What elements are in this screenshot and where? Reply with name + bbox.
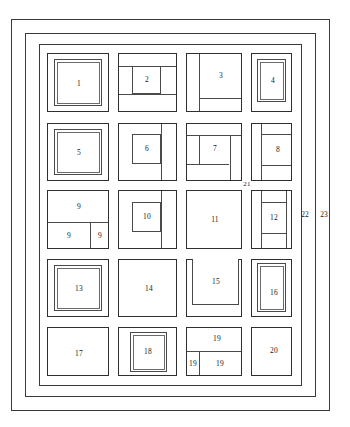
block-13: 13 — [47, 259, 109, 317]
block-7-inner-divider — [199, 135, 200, 164]
block-16: 16 — [251, 259, 292, 317]
block-3-bottom-divider — [199, 98, 241, 99]
block-14: 14 — [118, 259, 177, 317]
block-9-label-right: 9 — [98, 232, 102, 240]
block-7: 7 — [186, 123, 242, 181]
block-12-bottom-divider — [261, 233, 286, 234]
block-15: 15 — [186, 259, 242, 317]
block-10-right-divider — [161, 191, 162, 248]
block-7-bottom-divider — [187, 164, 229, 165]
block-19-bottom-divider — [199, 351, 200, 375]
block-11-label: 11 — [211, 216, 219, 224]
block-8-left-divider — [261, 124, 262, 180]
block-9: 9 9 9 — [47, 190, 109, 249]
block-1: 1 — [47, 53, 109, 112]
block-8: 8 — [251, 123, 292, 181]
block-10: 10 — [118, 190, 177, 249]
block-13-label: 13 — [75, 285, 83, 293]
block-20-label: 20 — [270, 347, 278, 355]
block-19-label-right: 19 — [216, 360, 224, 368]
block-12-label: 12 — [270, 214, 278, 222]
block-19-mid-divider — [187, 351, 241, 352]
block-2-bottom-divider — [119, 94, 176, 95]
block-5: 5 — [47, 123, 109, 181]
block-6-label: 6 — [145, 145, 149, 153]
block-6: 6 — [118, 123, 177, 181]
block-18-label: 18 — [144, 348, 152, 356]
block-19-label-top: 19 — [213, 335, 221, 343]
block-12-top-divider — [261, 202, 286, 203]
block-7-top-divider — [187, 135, 241, 136]
block-12-left-divider — [261, 191, 262, 248]
block-10-label: 10 — [143, 213, 151, 221]
block-4: 4 — [251, 53, 292, 112]
block-5-label: 5 — [77, 149, 81, 157]
block-6-right-divider — [161, 124, 162, 180]
block-12-right-divider — [286, 191, 287, 248]
label-22: 22 — [301, 211, 309, 219]
block-15-label: 15 — [212, 278, 220, 286]
block-3-left-divider — [199, 54, 200, 111]
block-7-right-divider — [230, 135, 231, 180]
label-21: 21 — [243, 181, 250, 188]
block-2-label: 2 — [145, 76, 149, 84]
block-19: 19 19 19 — [186, 327, 242, 376]
block-8-bottom-divider — [261, 165, 291, 166]
block-3: 3 — [186, 53, 242, 112]
block-17: 17 — [47, 327, 109, 376]
block-9-mid-divider — [48, 222, 108, 223]
block-18: 18 — [118, 327, 177, 376]
block-3-label: 3 — [219, 72, 223, 80]
block-9-bottom-divider — [90, 222, 91, 248]
block-9-label-top: 9 — [77, 203, 81, 211]
block-17-label: 17 — [75, 350, 83, 358]
block-19-label-left: 19 — [189, 360, 197, 368]
block-8-top-divider — [261, 134, 291, 135]
block-9-label-left: 9 — [67, 232, 71, 240]
block-2: 2 — [118, 53, 177, 112]
label-23: 23 — [320, 211, 328, 219]
block-14-label: 14 — [145, 285, 153, 293]
block-8-label: 8 — [276, 146, 280, 154]
block-11: 11 — [186, 190, 242, 249]
block-1-label: 1 — [77, 80, 81, 88]
block-16-label: 16 — [270, 289, 278, 297]
figure-sheet: 22 23 1 2 3 4 — [0, 0, 350, 427]
block-12: 12 — [251, 190, 292, 249]
block-grid: 1 2 3 4 5 6 — [47, 53, 292, 376]
block-4-label: 4 — [271, 77, 275, 85]
block-20: 20 — [251, 327, 292, 376]
block-7-label: 7 — [213, 145, 217, 153]
